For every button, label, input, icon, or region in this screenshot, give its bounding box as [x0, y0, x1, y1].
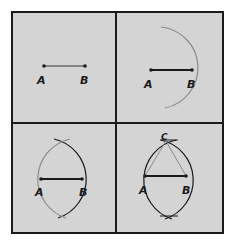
label-b: B: [79, 186, 87, 199]
label-a: A: [34, 186, 44, 199]
point-b: [80, 177, 84, 181]
label-c: C: [161, 132, 168, 142]
label-a: A: [143, 78, 153, 91]
label-b: B: [187, 78, 195, 91]
point-b: [190, 68, 194, 72]
construction-figure: A B A B A B A B C: [0, 0, 232, 245]
label-a: A: [36, 74, 46, 87]
label-b: B: [80, 74, 88, 87]
point-a: [39, 177, 43, 181]
point-a: [149, 68, 153, 72]
point-b: [83, 64, 87, 68]
label-a: A: [138, 184, 148, 197]
point-b: [184, 174, 188, 178]
point-a: [42, 64, 46, 68]
label-b: B: [182, 184, 190, 197]
point-a: [143, 174, 147, 178]
